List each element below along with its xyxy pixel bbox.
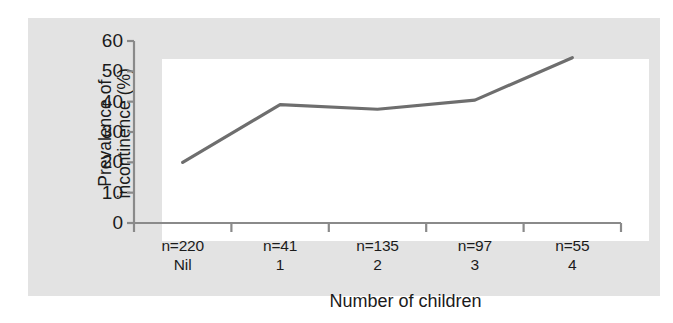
x-tick-label: n=220Nil [134,236,231,275]
x-tick-category: 1 [231,255,328,274]
x-tick-sample-size: n=135 [329,236,426,255]
x-tick-category: 3 [426,255,523,274]
x-tick-sample-size: n=41 [231,236,328,255]
plot-area [162,59,649,241]
y-tick-label: 30 [89,122,123,141]
x-tick-sample-size: n=55 [524,236,621,255]
x-tick-category: Nil [134,255,231,274]
y-tick-label: 0 [89,213,123,232]
x-tick-category: 2 [329,255,426,274]
x-axis-label: Number of children [162,291,649,312]
figure-container: Prevalence of incontinence (%) Number of… [0,0,673,323]
x-tick-label: n=973 [426,236,523,275]
x-tick-label: n=411 [231,236,328,275]
x-tick-sample-size: n=97 [426,236,523,255]
x-tick-label: n=1352 [329,236,426,275]
y-tick-label: 20 [89,152,123,171]
y-tick-label: 40 [89,92,123,111]
x-tick-category: 4 [524,255,621,274]
y-tick-label: 60 [89,31,123,50]
x-tick-label: n=554 [524,236,621,275]
x-tick-sample-size: n=220 [134,236,231,255]
y-tick-label: 50 [89,61,123,80]
y-tick-label: 10 [89,183,123,202]
